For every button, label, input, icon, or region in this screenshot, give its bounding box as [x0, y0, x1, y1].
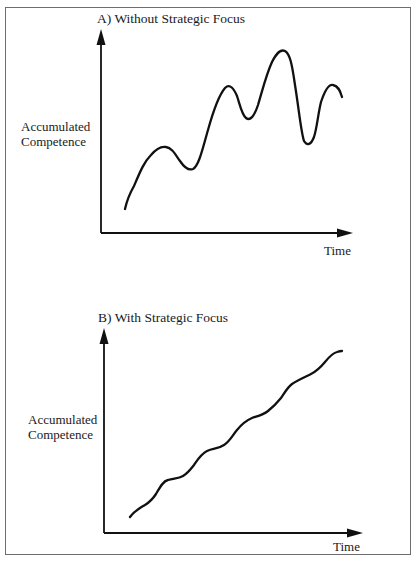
panel-a-x-label: Time	[324, 244, 351, 257]
panel-b-title: B) With Strategic Focus	[98, 311, 228, 325]
panel-a-x-arrow-icon	[337, 229, 353, 238]
panel-a-title: A) Without Strategic Focus	[97, 12, 245, 26]
panel-b-axes	[100, 328, 364, 538]
panel-a-y-arrow-icon	[97, 29, 106, 45]
panel-b-y-label: Accumulated Competence	[28, 412, 97, 442]
panel-a-y-label: Accumulated Competence	[21, 119, 90, 149]
panel-b-x-label: Time	[333, 540, 360, 553]
panel-b-competence-curve	[130, 351, 342, 517]
panel-b-y-arrow-icon	[100, 328, 109, 344]
panel-a-y-label-line2: Competence	[21, 134, 90, 149]
figure-canvas	[0, 0, 419, 562]
panel-a-competence-curve	[125, 50, 342, 209]
panel-a-y-label-line1: Accumulated	[21, 119, 90, 134]
panel-b-y-label-line1: Accumulated	[28, 412, 97, 427]
panel-b-y-label-line2: Competence	[28, 427, 97, 442]
panel-b-x-arrow-icon	[347, 529, 363, 538]
